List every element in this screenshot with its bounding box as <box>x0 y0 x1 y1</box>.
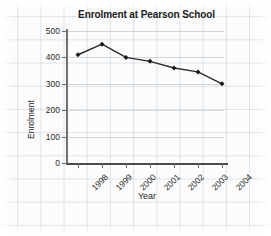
x-tick-2001 <box>150 163 151 168</box>
data-point-2004 <box>220 81 225 86</box>
data-series-line <box>66 31 224 163</box>
x-tick-label-2004: 2004 <box>234 172 254 192</box>
data-point-2002 <box>172 65 177 70</box>
enrolment-markers <box>76 42 225 87</box>
x-tick-1998 <box>78 163 79 168</box>
x-axis-title: Year <box>66 191 228 201</box>
x-tick-2004 <box>222 163 223 168</box>
x-tick-label-2001: 2001 <box>162 172 182 192</box>
x-tick-2003 <box>198 163 199 168</box>
y-tick-label-200: 200 <box>46 105 60 115</box>
data-point-2001 <box>148 59 153 64</box>
y-axis-title-label: Enrolment <box>26 127 36 139</box>
enrolment-line <box>78 44 222 84</box>
x-tick-label-2003: 2003 <box>210 172 230 192</box>
x-tick-label-1998: 1998 <box>90 172 110 192</box>
y-tick-0 <box>62 163 67 164</box>
data-point-1998 <box>76 52 81 57</box>
chart-title: Enrolment at Pearson School <box>0 9 271 20</box>
x-tick-2000 <box>126 163 127 168</box>
y-tick-label-400: 400 <box>46 52 60 62</box>
x-tick-2002 <box>174 163 175 168</box>
x-tick-label-2000: 2000 <box>138 172 158 192</box>
y-tick-label-100: 100 <box>46 132 60 142</box>
y-tick-label-0: 0 <box>55 158 60 168</box>
graph-paper-page: Enrolment at Pearson School Enrolment Ye… <box>0 0 271 236</box>
y-axis-title: Enrolment <box>26 127 36 139</box>
data-point-2003 <box>196 69 201 74</box>
x-tick-label-1999: 1999 <box>114 172 134 192</box>
x-tick-label-2002: 2002 <box>186 172 206 192</box>
x-tick-1999 <box>102 163 103 168</box>
y-tick-label-300: 300 <box>46 79 60 89</box>
x-axis-line <box>66 163 228 165</box>
y-tick-label-500: 500 <box>46 26 60 36</box>
plot-area: 0100200300400500 19981999200020012002200… <box>66 31 224 163</box>
